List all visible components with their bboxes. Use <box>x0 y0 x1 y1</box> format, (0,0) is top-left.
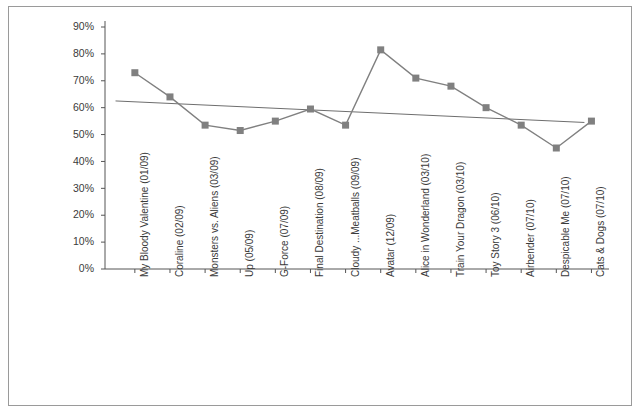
plot-area: 90% 80% 70% 60% 50% 40% 30% 20% 10% 0% <box>9 7 633 407</box>
chart-figure-frame: 90% 80% 70% 60% 50% 40% 30% 20% 10% 0% <box>8 6 632 406</box>
data-point-marker: Avatar (12/09): 81.5% <box>377 46 384 53</box>
data-point-marker: Despicable Me (07/10): 45% <box>553 145 560 152</box>
x-axis-label-9: Train Your Dragon (03/10) <box>455 162 466 277</box>
data-point-marker: Alice in Wonderland (03/10): 71% <box>412 75 419 82</box>
x-axis-label-1: Coraline (02/09) <box>174 205 185 277</box>
x-axis-label-4: G-Force (07/09) <box>279 206 290 277</box>
data-point-marker: Up (05/09): 51.5% <box>237 127 244 134</box>
x-axis-label-10: Toy Story 3 (06/10) <box>490 193 501 277</box>
data-point-marker: Coraline (02/09): 64% <box>166 93 173 100</box>
data-point-marker: Monsters vs. Aliens (03/09): 53.5% <box>202 122 209 129</box>
trendline <box>116 101 585 123</box>
x-axis-label-8: Alice in Wonderland (03/10) <box>420 154 431 277</box>
data-point-marker: Final Destination (08/09): 59.5% <box>307 106 314 113</box>
data-point-marker: Cloudy ...Meatballs (09/09): 53.5% <box>342 122 349 129</box>
x-axis-label-12: Despicable Me (07/10) <box>560 176 571 277</box>
y-axis-tick-marks <box>101 27 105 269</box>
x-axis-label-6: Cloudy ...Meatballs (09/09) <box>350 157 361 277</box>
x-axis-label-11: Airbender (07/10) <box>525 199 536 277</box>
x-axis-label-0: My Bloody Valentine (01/09) <box>139 152 150 277</box>
data-point-marker: Train Your Dragon (03/10): 68% <box>447 83 454 90</box>
x-axis-label-5: Final Destination (08/09) <box>314 168 325 277</box>
x-axis-tick-marks <box>135 269 592 273</box>
data-series-markers: My Bloody Valentine (01/09): 73%Coraline… <box>131 46 595 151</box>
x-axis-label-7: Avatar (12/09) <box>385 214 396 277</box>
data-point-marker: Airbender (07/10): 53.5% <box>518 122 525 129</box>
screenshot-root: 90% 80% 70% 60% 50% 40% 30% 20% 10% 0% <box>0 0 641 415</box>
x-axis-label-13: Cats & Dogs (07/10) <box>595 186 606 277</box>
data-point-marker: G-Force (07/09): 55% <box>272 118 279 125</box>
data-point-marker: Toy Story 3 (06/10): 60% <box>483 104 490 111</box>
x-axis-label-2: Monsters vs. Aliens (03/09) <box>209 156 220 277</box>
x-axis-label-3: Up (05/09) <box>244 230 255 277</box>
data-point-marker: My Bloody Valentine (01/09): 73% <box>131 69 138 76</box>
data-point-marker: Cats & Dogs (07/10): 55% <box>588 118 595 125</box>
data-series-line <box>135 50 592 148</box>
